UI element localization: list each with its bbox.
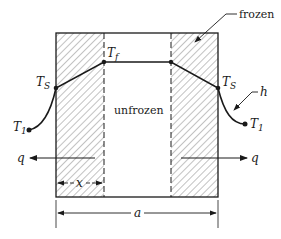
- label-ts-right: TS: [222, 75, 236, 91]
- frozen-region-right: [171, 33, 218, 197]
- label-t1-left: T1: [13, 120, 27, 136]
- label-frozen: frozen: [239, 8, 274, 21]
- label-a: a: [134, 206, 141, 220]
- point-ts-right: [216, 86, 221, 91]
- label-q-left: q: [17, 151, 25, 165]
- label-unfrozen: unfrozen: [114, 104, 164, 117]
- point-ts-left: [54, 86, 59, 91]
- label-h: h: [260, 85, 268, 99]
- label-x: x: [76, 176, 83, 190]
- point-tf-right: [169, 60, 173, 64]
- point-tf-left: [102, 60, 106, 64]
- frozen-region-left: [56, 33, 104, 197]
- label-tf: Tf: [107, 46, 120, 62]
- point-t1-left: [27, 128, 32, 133]
- freezing-slab-diagram: frozen unfrozen Tf TS TS T1 T1 h q q x a: [0, 0, 281, 239]
- diagram-svg: frozen unfrozen Tf TS TS T1 T1 h q q x a: [0, 0, 281, 239]
- h-leader: [234, 92, 258, 110]
- label-t1-right: T1: [250, 117, 264, 133]
- point-t1-right: [243, 122, 248, 127]
- label-q-right: q: [251, 151, 259, 165]
- label-ts-left: TS: [36, 75, 50, 91]
